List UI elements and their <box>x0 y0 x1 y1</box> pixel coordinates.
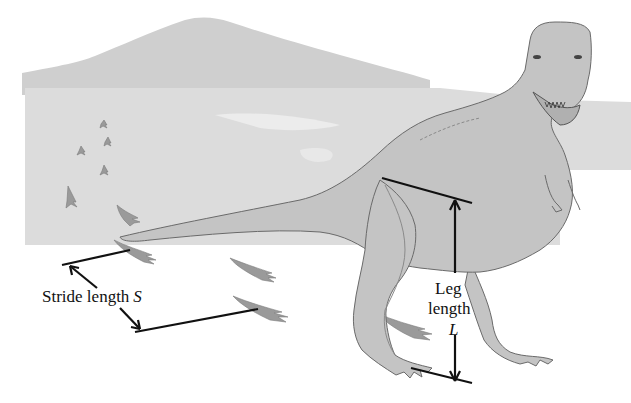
dinosaur-far-leg <box>465 260 553 366</box>
footprint-icon <box>230 258 276 282</box>
footprint-icon <box>233 296 288 322</box>
stride-lower-line <box>135 309 258 332</box>
dinosaur-stride-diagram: Stride lengthS Leg length L <box>0 0 631 403</box>
leg-length-variable: L <box>449 321 458 338</box>
dinosaur-eye <box>533 55 541 59</box>
diagram-canvas <box>0 0 631 403</box>
stride-length-label: Stride lengthS <box>42 288 142 305</box>
stride-arrow-down <box>120 308 140 329</box>
leg-length-label-line2: length <box>428 300 471 317</box>
mountain <box>22 18 430 95</box>
stride-upper-line <box>62 250 130 265</box>
stride-length-text: Stride length <box>42 287 129 306</box>
stride-arrow-up <box>70 266 97 288</box>
stride-variable: S <box>133 287 142 306</box>
leg-length-label-line1: Leg <box>435 280 461 297</box>
dinosaur-eye <box>574 55 582 59</box>
